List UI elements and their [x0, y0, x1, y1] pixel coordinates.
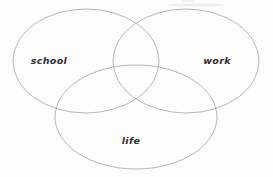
- venn-label-work: work: [203, 55, 231, 66]
- diagram-background: [0, 0, 273, 178]
- venn-label-life: life: [122, 135, 141, 146]
- venn-diagram-page: school work life: [0, 0, 273, 178]
- scan-artifact-top-smudge: [166, 3, 226, 6]
- venn-diagram-canvas: school work life: [0, 0, 273, 178]
- scan-artifact-top-dot: [182, 0, 194, 2]
- venn-label-school: school: [31, 55, 68, 66]
